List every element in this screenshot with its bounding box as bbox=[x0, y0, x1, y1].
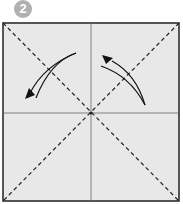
origami-fold-diagram bbox=[0, 0, 183, 204]
center-point bbox=[90, 112, 93, 115]
